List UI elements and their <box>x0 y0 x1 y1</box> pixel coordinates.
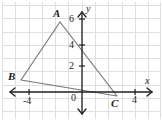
vertex-label-a: A <box>53 8 60 19</box>
coordinate-plane-figure: A B C y x 6 4 2 -4 4 0 <box>0 0 162 121</box>
vertex-label-b: B <box>8 71 15 82</box>
y-tick-label-4: 4 <box>69 40 74 50</box>
vertex-label-c: C <box>111 98 118 109</box>
x-axis <box>10 88 152 96</box>
y-axis-label: y <box>86 4 90 14</box>
origin-label: 0 <box>71 93 76 103</box>
x-tick-label-4: 4 <box>132 95 137 105</box>
y-tick-label-2: 2 <box>69 61 74 71</box>
x-axis-label: x <box>145 76 149 86</box>
y-tick-label-6: 6 <box>69 14 74 24</box>
x-tick-label-neg4: -4 <box>23 96 31 106</box>
